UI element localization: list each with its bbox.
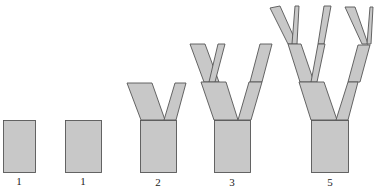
stage-label: 5: [327, 176, 333, 188]
branch-lr: [311, 44, 325, 82]
branch-right-top: [250, 44, 272, 82]
stage-5: 5: [270, 6, 373, 188]
trunk: [4, 121, 36, 173]
tree-growth-diagram: 1 1 2 3 5: [0, 0, 375, 190]
branch-rl: [345, 7, 368, 44]
branch-right: [238, 82, 262, 120]
trunk: [141, 121, 177, 173]
stage-label: 3: [229, 176, 235, 188]
branch-right: [164, 83, 186, 120]
trunk: [312, 121, 349, 173]
branch-rr: [367, 7, 373, 44]
branch-left: [201, 82, 238, 120]
branch-lr-top: [318, 6, 331, 44]
stage-3: 3: [190, 44, 272, 188]
branch-left: [127, 83, 165, 120]
stage-1b: 1: [66, 121, 102, 188]
stage-1a: 1: [4, 121, 36, 188]
branch-left: [299, 82, 337, 120]
stage-label: 2: [155, 176, 161, 188]
branch-r-top: [348, 45, 370, 82]
branch-llr: [292, 6, 299, 44]
branch-right: [336, 82, 358, 120]
branch-ll: [288, 44, 314, 82]
stage-2: 2: [127, 83, 186, 188]
stage-label: 1: [80, 175, 86, 187]
trunk: [66, 121, 102, 173]
stage-label: 1: [16, 175, 22, 187]
trunk: [215, 121, 251, 173]
